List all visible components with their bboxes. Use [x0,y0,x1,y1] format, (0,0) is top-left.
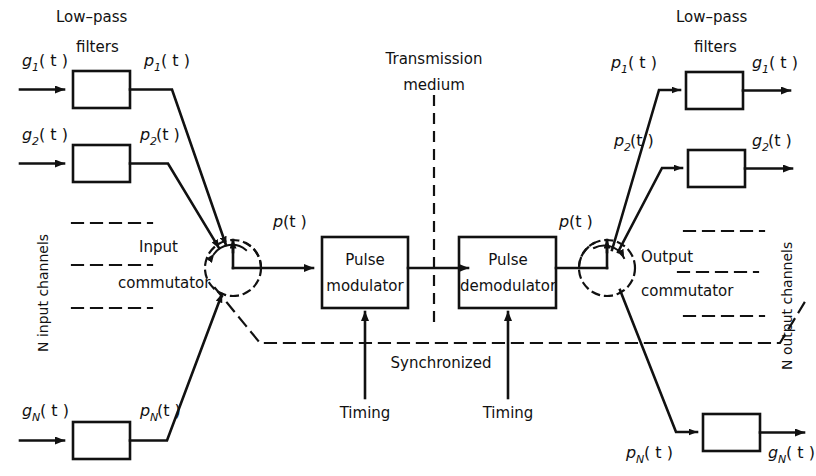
filter-box-left-n [73,422,130,459]
filter-box-left-1 [73,71,130,108]
label-p2-right-paren: (t ) [630,131,654,150]
left-filters-header: filters [76,38,119,56]
label-g1-right: g 1 ( t ) [752,53,798,76]
left-channels-label: N input channels [35,234,51,352]
synchronized-label: Synchronized [391,354,492,372]
label-pn-right-sub: N [636,453,644,466]
link-p2-to-input-commutator [130,164,219,249]
right-lowpass-header: Low–pass [676,8,748,26]
label-pn-left-paren: (t ) [157,401,181,420]
label-gn-right: g N ( t ) [768,443,815,466]
label-p1-left: p 1 ( t ) [143,51,190,74]
output-commutator-label-line2: commutator [641,282,734,300]
pulse-demodulator-box [459,237,556,308]
label-p2-left: p 2 (t ) [139,125,180,148]
pulse-modulator-label-line2: modulator [326,277,404,295]
tdm-block-diagram: Low–pass filters Low–pass filters g 1 ( … [0,0,816,476]
label-p2-right-base: p [613,131,624,150]
label-g2: g 2 ( t ) [22,125,68,148]
filter-box-right-1 [686,72,743,109]
timing-label-left: Timing [339,404,391,422]
label-p-left-base: p [272,212,283,231]
transmission-medium-line1: Transmission [385,50,483,68]
label-gn: g N ( t ) [22,401,69,424]
label-g2-base: g [22,125,32,144]
label-p-right-paren: (t ) [569,212,593,231]
link-output-commutator-to-p2 [618,168,682,252]
label-p1-right-base: p [610,53,621,72]
label-p1-right-paren: ( t ) [628,53,657,72]
label-gn-sub: N [32,411,40,424]
diagram-canvas: Low–pass filters Low–pass filters g 1 ( … [0,0,816,476]
label-gn-paren: ( t ) [40,401,69,420]
label-g1-base: g [22,51,32,70]
label-g1: g 1 ( t ) [22,51,68,74]
label-g1-right-paren: ( t ) [769,53,798,72]
label-g1-right-sub: 1 [762,63,769,76]
label-gn-base: g [22,401,32,420]
label-pn-left-base: p [139,401,150,420]
link-p1-to-input-commutator [130,90,226,246]
label-p1-right: p 1 ( t ) [610,53,657,76]
label-gn-right-paren: ( t ) [786,443,815,462]
link-output-commutator-to-pn [620,290,697,432]
label-pn-right-paren: ( t ) [644,443,673,462]
label-p1-right-sub: 1 [621,63,628,76]
input-commutator-label-line2: commutator [118,274,211,292]
label-g2-paren: ( t ) [39,125,68,144]
label-p-right-base: p [558,212,569,231]
label-g1-right-base: g [752,53,762,72]
label-g2-right-base: g [752,131,762,150]
input-commutator-arc [246,243,261,268]
pulse-modulator-label-line1: Pulse [345,251,385,269]
label-p2-left-paren: (t ) [156,125,180,144]
label-p2-right: p 2 (t ) [613,131,654,154]
right-channels-label: N output channels [779,242,795,370]
label-p2-left-base: p [139,125,150,144]
transmission-medium-line2: medium [403,76,465,94]
label-g1-paren: ( t ) [39,51,68,70]
filter-box-left-2 [73,145,130,182]
input-commutator-label-line1: Input [139,238,178,256]
label-g1-sub: 1 [32,61,39,74]
right-filters-header: filters [694,38,737,56]
label-p1-left-paren: ( t ) [161,51,190,70]
label-p1-left-base: p [143,51,154,70]
label-g2-right: g 2 (t ) [752,131,792,154]
label-p-left-paren: (t ) [283,212,307,231]
label-pn-right: p N ( t ) [625,443,673,466]
label-gn-right-base: g [768,443,778,462]
label-p1-left-sub: 1 [154,61,161,74]
output-commutator-label-line1: Output [641,248,693,266]
label-g2-right-paren: (t ) [768,131,792,150]
pulse-modulator-box [322,237,408,308]
label-pn-right-base: p [625,443,636,462]
pulse-demodulator-label-line2: demodulator [460,277,557,295]
link-output-commutator-to-p1 [612,90,680,250]
filter-box-right-n [703,414,760,451]
pulse-demodulator-label-line1: Pulse [488,251,528,269]
label-g2-sub: 2 [32,135,39,148]
label-p-of-t-right: p (t ) [558,212,593,231]
left-lowpass-header: Low–pass [56,8,128,26]
label-gn-right-sub: N [778,453,786,466]
output-commutator-arc [579,243,594,268]
label-p-of-t-left: p (t ) [272,212,307,231]
filter-box-right-2 [688,150,745,187]
timing-label-right: Timing [482,404,534,422]
